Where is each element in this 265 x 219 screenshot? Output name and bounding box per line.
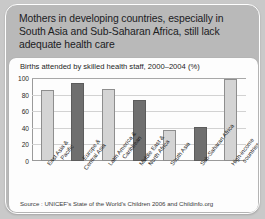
bar-east-asia-pacific[interactable] bbox=[41, 90, 54, 161]
info-card: Mothers in developing countries, especia… bbox=[5, 4, 260, 214]
chart-title: Births attended by skilled health staff,… bbox=[20, 62, 200, 71]
y-tick-label: 60 bbox=[22, 108, 29, 115]
bar-latin-america-caribbean[interactable] bbox=[102, 89, 115, 161]
x-label-slot: High-incomecountries bbox=[215, 162, 246, 208]
y-tick-label: 40 bbox=[22, 124, 29, 131]
y-tick-label: 20 bbox=[22, 141, 29, 148]
chart-source-note: Source : UNICEF's State of the World's C… bbox=[20, 200, 213, 207]
bar-high-income-countries[interactable] bbox=[224, 79, 237, 161]
y-tick-label: 100 bbox=[18, 75, 29, 82]
y-tick-label: 0 bbox=[25, 158, 29, 165]
bar-middle-east-north-africa[interactable] bbox=[133, 100, 146, 161]
y-tick-label: 80 bbox=[22, 91, 29, 98]
chart-panel: Births attended by skilled health staff,… bbox=[9, 58, 258, 212]
page-title: Mothers in developing countries, especia… bbox=[19, 12, 247, 52]
